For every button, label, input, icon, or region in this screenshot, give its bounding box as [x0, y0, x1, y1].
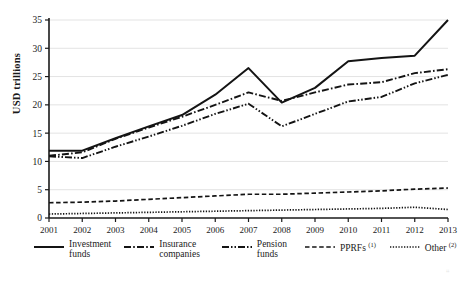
- legend-footnote-marker: (2): [449, 241, 457, 248]
- chart-legend: Investment fundsInsurance companiesPensi…: [0, 239, 458, 273]
- legend-item[interactable]: Investment funds: [34, 239, 111, 260]
- x-tick-label: 2011: [373, 225, 391, 235]
- legend-item-label: Other (2): [425, 239, 457, 254]
- x-tick-label: 2010: [339, 225, 358, 235]
- y-tick-label: 5: [37, 185, 42, 195]
- legend-footnote-marker: (1): [368, 241, 376, 248]
- y-tick-label: 0: [37, 213, 42, 223]
- x-tick-label: 2005: [173, 225, 192, 235]
- y-tick-label: 10: [33, 157, 43, 167]
- legend-item-label: PPRFs (1): [340, 239, 376, 254]
- x-tick-label: 2012: [406, 225, 424, 235]
- legend-item[interactable]: Other (2): [390, 239, 457, 254]
- x-tick-label: 2004: [140, 225, 159, 235]
- y-tick-label: 30: [33, 44, 43, 54]
- legend-item[interactable]: PPRFs (1): [305, 239, 376, 254]
- series-line-pprfs: [49, 188, 448, 203]
- series-line-investment-funds: [49, 20, 448, 151]
- series-lines: [49, 20, 448, 214]
- series-line-pension-funds: [49, 75, 448, 158]
- legend-item[interactable]: Pension funds: [222, 239, 287, 260]
- x-axis: 2001200220032004200520062007200820092010…: [40, 218, 458, 235]
- x-tick-label: 2008: [273, 225, 292, 235]
- legend-item-label: Investment funds: [69, 239, 111, 260]
- y-tick-label: 25: [33, 72, 43, 82]
- dash-dot-line-swatch: [124, 240, 154, 254]
- dashed-line-swatch: [305, 240, 335, 254]
- x-tick-label: 2009: [306, 225, 325, 235]
- x-tick-label: 2006: [206, 225, 225, 235]
- y-tick-label: 20: [33, 100, 43, 110]
- legend-item-label: Insurance companies: [159, 239, 200, 260]
- chart-container: USD trillions 05101520253035 20012002200…: [0, 0, 458, 281]
- corner-artifact: ⌗: [446, 268, 450, 275]
- x-tick-label: 2003: [107, 225, 126, 235]
- dotted-line-swatch: [390, 240, 420, 254]
- legend-item-label: Pension funds: [257, 239, 287, 260]
- series-line-insurance-companies: [49, 69, 448, 156]
- series-line-other: [49, 207, 448, 214]
- y-tick-label: 35: [33, 15, 43, 25]
- dash-dot-dot-line-swatch: [222, 240, 252, 254]
- x-tick-label: 2002: [73, 225, 91, 235]
- y-axis: 05101520253035: [33, 15, 50, 223]
- x-tick-label: 2013: [439, 225, 458, 235]
- x-tick-label: 2007: [240, 225, 259, 235]
- solid-line-swatch: [34, 240, 64, 254]
- legend-item[interactable]: Insurance companies: [124, 239, 200, 260]
- x-tick-label: 2001: [40, 225, 58, 235]
- y-tick-label: 15: [33, 129, 43, 139]
